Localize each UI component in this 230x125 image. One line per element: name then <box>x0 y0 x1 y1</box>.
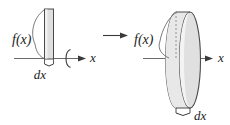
left-dx-label: dx <box>34 67 47 82</box>
left-x-axis-arrowhead <box>78 56 86 62</box>
transition-arrow-group <box>103 33 128 39</box>
right-dx-label: dx <box>194 108 207 123</box>
right-x-label: x <box>217 50 224 65</box>
right-dx-bracket <box>176 113 190 116</box>
disk-method-figure: f(x) dx x <box>0 0 230 125</box>
left-panel-group: f(x) dx x <box>12 9 96 82</box>
left-x-label: x <box>89 50 96 65</box>
left-fx-leader-upper <box>33 10 44 44</box>
right-panel-group: f(x) dx x <box>134 12 224 123</box>
left-dx-bracket <box>45 64 54 66</box>
transition-arrow-head <box>120 33 128 39</box>
right-fx-label: f(x) <box>134 32 154 48</box>
left-fx-leader-lower <box>35 44 45 59</box>
area-strip-highlight <box>45 10 48 59</box>
left-fx-label: f(x) <box>12 32 32 48</box>
right-x-axis-arrowhead <box>205 56 213 62</box>
figure-canvas: f(x) dx x <box>0 0 230 125</box>
